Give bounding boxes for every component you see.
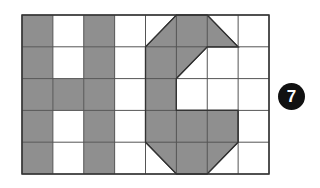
letter-h-cell (84, 47, 115, 79)
letter-h-cell (22, 79, 53, 111)
letter-g-shape (146, 15, 239, 174)
letter-h-cell (22, 47, 53, 79)
letter-h-cell (22, 142, 53, 174)
letter-h-cell (84, 79, 115, 111)
letter-h-cell (84, 15, 115, 47)
letter-h-cell (53, 79, 84, 111)
grid-puzzle-diagram (0, 0, 320, 188)
letter-h-cell (22, 15, 53, 47)
letter-h-cell (84, 110, 115, 142)
number-badge: 7 (278, 83, 305, 110)
letter-h-cell (22, 110, 53, 142)
letter-h-cell (84, 142, 115, 174)
